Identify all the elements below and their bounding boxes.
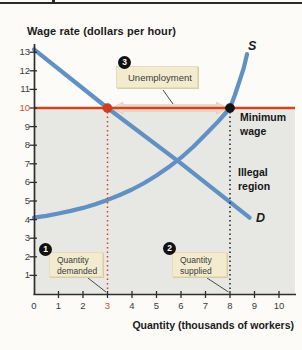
x-tick-label-0: 0 bbox=[24, 300, 44, 311]
quantity-supplied-callout: Quantity supplied bbox=[172, 252, 227, 277]
y-tick-label-1: 1 bbox=[8, 269, 30, 280]
unemployment-callout: Unemployment bbox=[116, 66, 198, 88]
y-tick-label-13: 13 bbox=[8, 46, 30, 57]
y-tick-label-11: 11 bbox=[8, 83, 30, 94]
x-tick-label-1: 1 bbox=[49, 300, 69, 311]
x-tick-label-3: 3 bbox=[98, 300, 118, 311]
x-axis-title: Quantity (thousands of workers) bbox=[132, 319, 294, 331]
y-tick-label-6: 6 bbox=[8, 176, 30, 187]
unemployment-callout-label: Unemployment bbox=[128, 72, 192, 83]
quantity-demanded-callout: Quantity demanded bbox=[49, 252, 103, 277]
unemployment-leader bbox=[163, 90, 173, 104]
y-tick-label-2: 2 bbox=[8, 251, 30, 262]
x-tick-label-9: 9 bbox=[245, 300, 265, 311]
y-tick-label-9: 9 bbox=[8, 121, 30, 132]
x-tick-label-8: 8 bbox=[220, 300, 240, 311]
x-tick-label-7: 7 bbox=[196, 300, 216, 311]
minimum-wage-figure: Wage rate (dollars per hour) 01234567891… bbox=[0, 0, 302, 350]
x-tick-label-4: 4 bbox=[122, 300, 142, 311]
x-tick-label-5: 5 bbox=[147, 300, 167, 311]
quantity-demanded-line2: demanded bbox=[57, 266, 102, 277]
y-tick-label-4: 4 bbox=[8, 214, 30, 225]
x-tick-label-6: 6 bbox=[171, 300, 191, 311]
y-tick-label-7: 7 bbox=[8, 158, 30, 169]
quantity-demanded-line1: Quantity bbox=[57, 255, 102, 266]
quantity-supplied-line2: supplied bbox=[180, 266, 226, 277]
x-tick-label-2: 2 bbox=[73, 300, 93, 311]
illegal-region-label: Illegal region bbox=[238, 166, 270, 193]
badge-2: 2 bbox=[163, 242, 176, 255]
quantity-supplied-line1: Quantity bbox=[180, 255, 226, 266]
quantity-demanded-point bbox=[103, 103, 112, 112]
demand-curve-label: D bbox=[256, 211, 265, 225]
badge-1: 1 bbox=[39, 243, 52, 256]
y-tick-label-3: 3 bbox=[8, 232, 30, 243]
y-tick-label-5: 5 bbox=[8, 195, 30, 206]
x-tick-label-10: 10 bbox=[269, 300, 289, 311]
y-tick-label-8: 8 bbox=[8, 139, 30, 150]
minimum-wage-label: Minimum wage bbox=[240, 111, 286, 138]
badge-3: 3 bbox=[118, 56, 131, 69]
y-tick-label-12: 12 bbox=[8, 65, 30, 76]
quantity-supplied-point bbox=[225, 103, 234, 112]
y-tick-label-10: 10 bbox=[8, 102, 30, 113]
supply-curve-label: S bbox=[248, 39, 256, 53]
